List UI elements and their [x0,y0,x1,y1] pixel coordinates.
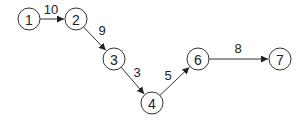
node-3: 3 [103,48,125,70]
node-6: 6 [187,48,209,70]
node-4: 4 [141,92,163,114]
edge-weight-label: 5 [164,68,171,83]
node-label: 1 [25,12,33,28]
edge-weight-label: 8 [234,41,241,56]
node-label: 4 [148,96,156,112]
edge-weight-label: 3 [133,65,140,80]
node-label: 7 [276,52,284,68]
node-label: 2 [72,12,80,28]
graph-diagram: 109358 123467 [0,0,307,123]
nodes-group: 123467 [18,8,291,114]
edge-weight-label: 9 [98,23,105,38]
node-2: 2 [65,8,87,30]
node-label: 6 [194,52,202,68]
node-7: 7 [269,48,291,70]
node-label: 3 [110,52,118,68]
node-1: 1 [18,8,40,30]
edge-weight-label: 10 [44,2,58,17]
graph-svg: 109358 123467 [0,0,307,123]
